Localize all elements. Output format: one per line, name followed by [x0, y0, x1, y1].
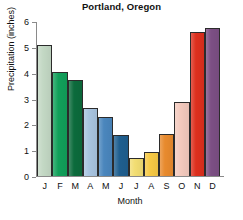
- x-tick-label-8: S: [159, 180, 174, 193]
- bar-sheen: [84, 109, 97, 176]
- y-tick-label: 3: [24, 95, 29, 104]
- y-tick-label: 5: [24, 43, 29, 52]
- x-tick-label-2: M: [68, 180, 83, 193]
- bar-j-5: [113, 135, 128, 176]
- bar-n-10: [190, 32, 205, 176]
- y-tick-label: 4: [24, 69, 29, 78]
- y-tick-mark: [32, 48, 36, 49]
- x-tick-label-9: O: [174, 180, 189, 193]
- bar-o-9: [174, 102, 189, 176]
- bar-sheen: [99, 118, 112, 176]
- y-axis-label: Precipitation (inches): [6, 0, 16, 125]
- x-tick-label-5: J: [113, 180, 128, 193]
- bar-f-1: [52, 72, 67, 176]
- x-tick-label-6: J: [129, 180, 144, 193]
- x-tick-label-1: F: [52, 180, 67, 193]
- chart-title: Portland, Oregon: [0, 1, 243, 12]
- bar-chart: Portland, Oregon Precipitation (inches) …: [0, 0, 243, 220]
- bar-sheen: [130, 159, 143, 176]
- y-tick-label: 0: [24, 173, 29, 182]
- plot-area: 0123456: [36, 22, 224, 177]
- bar-s-8: [159, 134, 174, 176]
- x-tick-label-10: N: [190, 180, 205, 193]
- y-tick-mark: [32, 100, 36, 101]
- y-tick-mark: [32, 22, 36, 23]
- bar-m-4: [98, 117, 113, 176]
- bar-sheen: [191, 33, 204, 176]
- bar-sheen: [206, 29, 219, 176]
- y-tick-mark: [32, 74, 36, 75]
- x-axis-ticks: JFMAMJJASOND: [37, 180, 220, 193]
- bar-sheen: [69, 81, 82, 176]
- bar-a-7: [144, 152, 159, 176]
- bar-sheen: [53, 73, 66, 176]
- x-tick-label-3: A: [83, 180, 98, 193]
- y-tick-label: 2: [24, 121, 29, 130]
- x-axis-label: Month: [36, 196, 224, 206]
- bar-a-3: [83, 108, 98, 176]
- bar-sheen: [38, 46, 51, 176]
- y-tick-mark: [32, 177, 36, 178]
- y-tick-mark: [32, 151, 36, 152]
- x-axis-line: [36, 176, 224, 177]
- bar-sheen: [114, 136, 127, 176]
- x-tick-label-7: A: [144, 180, 159, 193]
- bar-j-0: [37, 45, 52, 176]
- bar-sheen: [160, 135, 173, 176]
- bar-sheen: [175, 103, 188, 176]
- bar-d-11: [205, 28, 220, 176]
- x-tick-label-11: D: [205, 180, 220, 193]
- bar-j-6: [129, 158, 144, 176]
- y-tick-mark: [32, 125, 36, 126]
- y-tick-label: 1: [24, 147, 29, 156]
- x-tick-label-4: M: [98, 180, 113, 193]
- x-tick-label-0: J: [37, 180, 52, 193]
- bar-m-2: [68, 80, 83, 176]
- y-tick-label: 6: [24, 18, 29, 27]
- bar-sheen: [145, 153, 158, 176]
- bar-series: [37, 22, 220, 176]
